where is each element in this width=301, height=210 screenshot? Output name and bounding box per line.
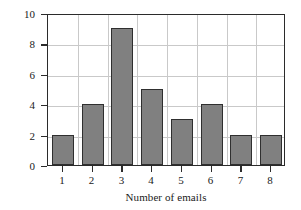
x-axis-tick-label: 6: [200, 175, 222, 186]
x-axis-tick-label: 1: [51, 175, 73, 186]
x-axis-title: Number of emails: [47, 191, 285, 204]
y-axis-tick: [41, 105, 47, 106]
y-axis-tick: [41, 14, 47, 15]
y-axis-tick: [41, 75, 47, 76]
y-axis-tick: [41, 166, 47, 167]
x-axis-tick: [62, 166, 63, 172]
y-axis-tick-label: 10: [9, 9, 35, 20]
y-axis-tick-label: 4: [9, 100, 35, 111]
y-axis-tick-label: 6: [9, 70, 35, 81]
x-axis-tick: [240, 166, 241, 172]
bar: [260, 135, 282, 165]
plot-area: [47, 14, 285, 166]
x-axis-tick-label: 3: [110, 175, 132, 186]
x-axis-tick: [92, 166, 93, 172]
bar: [111, 28, 133, 165]
x-axis-tick: [181, 166, 182, 172]
x-axis-tick: [270, 166, 271, 172]
x-axis-tick: [211, 166, 212, 172]
bar: [201, 104, 223, 165]
bar-chart-figure: Frequency 0246810 12345678 Number of ema…: [0, 0, 301, 210]
x-axis-tick-label: 4: [140, 175, 162, 186]
y-axis-tick-label: 8: [9, 39, 35, 50]
y-axis-tick: [41, 44, 47, 45]
bar: [82, 104, 104, 165]
x-axis-tick: [151, 166, 152, 172]
bars-container: [48, 15, 284, 165]
bar: [141, 89, 163, 165]
y-axis-tick: [41, 136, 47, 137]
x-axis-tick-label: 7: [229, 175, 251, 186]
x-axis-tick-label: 2: [81, 175, 103, 186]
x-axis-tick-label: 8: [259, 175, 281, 186]
x-axis-tick-label: 5: [170, 175, 192, 186]
y-axis-tick-label: 0: [9, 161, 35, 172]
bar: [171, 119, 193, 165]
x-axis-tick: [121, 166, 122, 172]
bar: [230, 135, 252, 165]
y-axis-tick-label: 2: [9, 131, 35, 142]
bar: [52, 135, 74, 165]
